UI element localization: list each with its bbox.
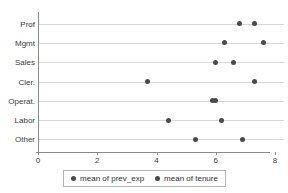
data-point	[145, 79, 150, 84]
legend-marker-icon	[155, 176, 160, 181]
y-axis-tick-label: Prof	[0, 19, 35, 28]
x-axis-tick	[157, 152, 158, 155]
grid-line	[38, 82, 284, 83]
x-axis-tick	[38, 152, 39, 155]
x-axis-tick	[97, 152, 98, 155]
grid-line	[38, 139, 284, 140]
y-axis-tick-label: Operat.	[0, 96, 35, 105]
chart-figure: ProfMgmtSalesCler.Operat.LaborOther mean…	[0, 0, 288, 193]
legend-label: mean of tenure	[164, 174, 218, 183]
data-point	[213, 98, 218, 103]
legend-label: mean of prev_exp	[80, 174, 144, 183]
y-axis-tick-label: Labor	[0, 116, 35, 125]
data-point	[219, 118, 224, 123]
chart-legend: mean of prev_expmean of tenure	[63, 170, 226, 187]
data-point	[237, 21, 242, 26]
x-axis-line	[36, 152, 270, 153]
data-point	[261, 40, 266, 45]
y-axis-tick-label: Mgmt	[0, 38, 35, 47]
data-point	[193, 137, 198, 142]
y-axis-tick-label: Cler.	[0, 77, 35, 86]
x-axis-tick-label: 8	[273, 156, 277, 165]
x-axis-tick-label: 6	[214, 156, 218, 165]
x-axis-tick	[216, 152, 217, 155]
grid-line	[38, 120, 284, 121]
x-axis-tick-label: 0	[36, 156, 40, 165]
data-point	[240, 137, 245, 142]
plot-area	[38, 14, 284, 149]
legend-marker-icon	[71, 176, 76, 181]
y-axis-tick-labels: ProfMgmtSalesCler.Operat.LaborOther	[0, 14, 35, 149]
x-axis-tick-label: 4	[154, 156, 158, 165]
data-point	[252, 21, 257, 26]
grid-line	[38, 43, 284, 44]
data-point	[166, 118, 171, 123]
data-point	[213, 60, 218, 65]
grid-line	[38, 24, 284, 25]
y-axis-tick-label: Sales	[0, 58, 35, 67]
legend-entry[interactable]: mean of tenure	[155, 174, 218, 183]
x-axis-tick	[275, 152, 276, 155]
data-point	[222, 40, 227, 45]
y-axis-line	[38, 12, 39, 152]
legend-entry[interactable]: mean of prev_exp	[71, 174, 144, 183]
data-point	[252, 79, 257, 84]
grid-line	[38, 62, 284, 63]
grid-line	[38, 101, 284, 102]
y-axis-tick-label: Other	[0, 135, 35, 144]
x-axis-tick-label: 2	[95, 156, 99, 165]
data-point	[231, 60, 236, 65]
